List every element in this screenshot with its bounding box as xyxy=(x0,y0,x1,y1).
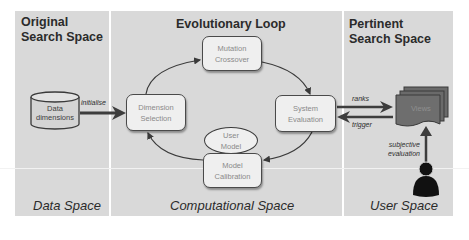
arrow-dimension-to-mutation xyxy=(146,60,200,94)
node-label: Calibration xyxy=(215,171,251,182)
node-label: Crossover xyxy=(215,54,249,65)
label-line: dimensions xyxy=(31,113,79,122)
node-label: Dimension xyxy=(138,102,173,113)
node-label: Model xyxy=(215,160,251,171)
views-label: Views xyxy=(411,104,431,113)
ranks-label: ranks xyxy=(352,95,369,102)
node-label: Mutation xyxy=(215,43,249,54)
arrow-calibration-to-dimension xyxy=(148,133,203,160)
person-icon xyxy=(413,162,439,197)
node-label: System xyxy=(288,103,323,114)
system-evaluation-node: System Evaluation xyxy=(275,95,336,132)
dimension-selection-node: Dimension Selection xyxy=(126,94,186,131)
arrow-mutation-to-system xyxy=(262,62,310,94)
subjective-evaluation-label: subjective evaluation xyxy=(388,140,420,158)
label-line: Data xyxy=(31,104,79,113)
model-calibration-node: Model Calibration xyxy=(203,153,262,188)
trigger-label: trigger xyxy=(352,121,372,128)
initialise-label: initialise xyxy=(81,99,106,106)
subjective-evaluation-arrow xyxy=(420,126,432,162)
arrow-system-to-calibration xyxy=(264,132,312,160)
ranks-arrow xyxy=(337,101,393,113)
node-label: Evaluation xyxy=(288,114,323,125)
label-line: subjective xyxy=(388,140,420,149)
initialise-arrow xyxy=(80,106,126,120)
data-dimensions-label: Data dimensions xyxy=(31,104,79,122)
label-line: evaluation xyxy=(388,149,420,158)
node-label: Selection xyxy=(138,113,173,124)
mutation-crossover-node: Mutation Crossover xyxy=(202,36,262,71)
node-label: User xyxy=(221,130,241,141)
user-model-node: User Model xyxy=(204,127,258,154)
node-label: Model xyxy=(221,141,241,152)
